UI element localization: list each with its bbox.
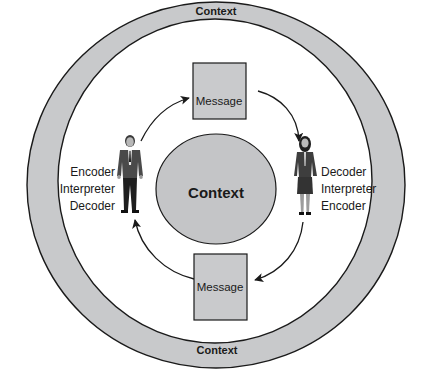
message-box-top <box>193 63 246 119</box>
message-label-top: Message <box>196 95 243 107</box>
role-label: Decoder <box>321 164 376 181</box>
role-label: Encoder <box>321 198 376 215</box>
role-label: Interpreter <box>321 181 376 198</box>
role-label: Encoder <box>60 164 115 181</box>
center-context-label: Context <box>188 184 244 201</box>
left-participant-roles: Encoder Interpreter Decoder <box>60 164 115 215</box>
outer-context-label-top: Context <box>196 5 237 17</box>
role-label: Decoder <box>60 198 115 215</box>
outer-context-label-bottom: Context <box>197 344 238 356</box>
role-label: Interpreter <box>60 181 115 198</box>
right-participant-roles: Decoder Interpreter Encoder <box>321 164 376 215</box>
message-label-bottom: Message <box>197 281 244 293</box>
